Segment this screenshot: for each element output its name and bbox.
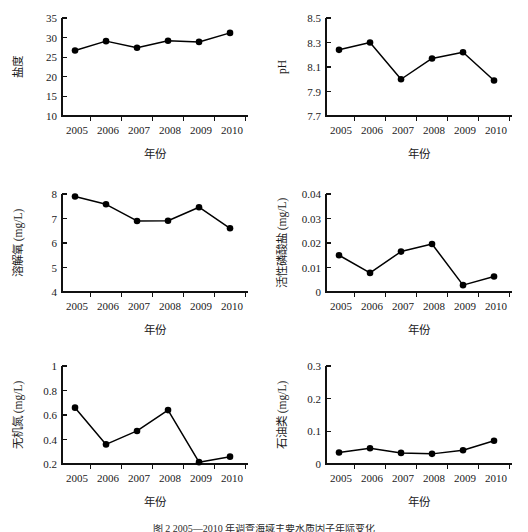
y-tick-label: 0.02	[302, 237, 321, 249]
chart-svg-petroleum: 00.10.20.3200520062007200820092010年份石油类 …	[264, 352, 528, 526]
x-axis-ticks-inorganic-nitrogen: 200520062007200820092010	[66, 464, 246, 484]
y-tick-label: 0.8	[43, 385, 57, 397]
data-point	[72, 404, 79, 411]
y-tick-label: 20	[46, 71, 58, 83]
x-tick-label: 2008	[423, 472, 446, 484]
x-axis-title: 年份	[144, 323, 167, 336]
x-tick-label: 2010	[221, 300, 244, 312]
x-tick-label: 2009	[454, 472, 477, 484]
x-tick-label: 2006	[361, 124, 384, 136]
data-point	[429, 451, 436, 458]
x-tick-label: 2007	[128, 124, 151, 136]
chart-svg-salinity: 101520253035200520062007200820092010年份盐度	[0, 4, 264, 178]
data-point	[165, 37, 172, 44]
x-tick-label: 2010	[485, 300, 508, 312]
data-point	[336, 47, 343, 54]
data-point	[165, 407, 172, 414]
chart-svg-active-phosphate: 00.010.020.030.0420052006200720082009201…	[264, 180, 528, 354]
y-tick-label: 0.1	[307, 425, 321, 437]
y-tick-label: 5	[52, 262, 58, 274]
y-tick-label: 8.1	[307, 61, 321, 73]
y-axis-ticks-dissolved-oxygen: 45678	[52, 188, 68, 298]
data-point	[227, 453, 234, 460]
data-point	[72, 193, 79, 200]
y-tick-label: 6	[52, 237, 58, 249]
axes-inorganic-nitrogen	[62, 366, 248, 464]
y-tick-label: 35	[46, 12, 58, 24]
x-tick-label: 2010	[221, 124, 244, 136]
y-tick-label: 25	[46, 51, 58, 63]
x-axis-title: 年份	[144, 147, 167, 160]
y-axis-title: 溶解氧 (mg/L)	[11, 209, 25, 278]
x-axis-ticks-petroleum: 200520062007200820092010	[330, 464, 510, 484]
figure-caption-clipped: 图 2 2005—2010 年调查海域主要水质因子年际变化	[0, 524, 528, 532]
y-tick-label: 7.9	[307, 86, 321, 98]
axes-dissolved-oxygen	[62, 194, 248, 292]
axes-active-phosphate	[326, 194, 512, 292]
x-axis-ticks-active-phosphate: 200520062007200820092010	[330, 292, 510, 312]
data-point	[336, 449, 343, 456]
data-point	[398, 450, 405, 457]
y-tick-label: 8	[52, 188, 58, 200]
x-axis-title: 年份	[408, 147, 431, 160]
data-point	[134, 218, 141, 225]
chart-panel-active-phosphate: 00.010.020.030.0420052006200720082009201…	[264, 180, 528, 354]
x-tick-label: 2006	[361, 300, 384, 312]
x-tick-label: 2006	[97, 124, 120, 136]
x-axis-ticks-ph: 200520062007200820092010	[330, 116, 510, 136]
data-point	[429, 241, 436, 248]
data-point	[460, 447, 467, 454]
chart-panel-petroleum: 00.10.20.3200520062007200820092010年份石油类 …	[264, 352, 528, 526]
y-tick-label: 0.04	[302, 188, 322, 200]
chart-panel-dissolved-oxygen: 45678200520062007200820092010年份溶解氧 (mg/L…	[0, 180, 264, 354]
y-tick-label: 7	[52, 213, 58, 225]
data-point	[491, 77, 498, 84]
series-line-salinity	[75, 33, 230, 51]
chart-svg-ph: 7.77.98.18.38.5200520062007200820092010年…	[264, 4, 528, 178]
x-tick-label: 2009	[190, 300, 213, 312]
x-tick-label: 2009	[190, 472, 213, 484]
x-tick-label: 2007	[392, 300, 415, 312]
data-point	[103, 38, 110, 45]
data-point	[134, 428, 141, 435]
data-point	[367, 39, 374, 46]
x-tick-label: 2010	[221, 472, 244, 484]
data-point	[429, 55, 436, 62]
series-line-active-phosphate	[339, 244, 494, 285]
x-axis-title: 年份	[408, 323, 431, 336]
x-tick-label: 2010	[485, 472, 508, 484]
data-point	[491, 273, 498, 280]
axes-petroleum	[326, 366, 512, 464]
x-tick-label: 2008	[423, 124, 446, 136]
y-tick-label: 0.01	[302, 262, 321, 274]
y-axis-ticks-petroleum: 00.10.20.3	[307, 360, 331, 470]
axes-salinity	[62, 18, 248, 116]
x-axis-ticks-salinity: 200520062007200820092010	[66, 116, 246, 136]
chart-svg-inorganic-nitrogen: 0.20.40.60.81200520062007200820092010年份无…	[0, 352, 264, 526]
x-tick-label: 2008	[159, 300, 182, 312]
x-tick-label: 2010	[485, 124, 508, 136]
data-point	[336, 252, 343, 259]
figure-panel-grid: 101520253035200520062007200820092010年份盐度…	[0, 0, 528, 532]
y-tick-label: 7.7	[307, 110, 321, 122]
y-tick-label: 0	[316, 458, 322, 470]
y-tick-label: 0	[316, 286, 322, 298]
y-axis-title: 石油类 (mg/L)	[275, 381, 289, 450]
data-point	[196, 39, 203, 46]
x-tick-label: 2008	[159, 472, 182, 484]
series-line-ph	[339, 43, 494, 81]
y-axis-ticks-inorganic-nitrogen: 0.20.40.60.81	[43, 360, 67, 470]
series-line-inorganic-nitrogen	[75, 408, 230, 463]
x-tick-label: 2006	[97, 300, 120, 312]
y-tick-label: 0.6	[43, 409, 57, 421]
data-point	[367, 445, 374, 452]
y-axis-ticks-ph: 7.77.98.18.38.5	[307, 12, 331, 122]
y-tick-label: 0.2	[43, 458, 57, 470]
chart-svg-dissolved-oxygen: 45678200520062007200820092010年份溶解氧 (mg/L…	[0, 180, 264, 354]
x-tick-label: 2005	[66, 124, 89, 136]
y-tick-label: 0.03	[302, 213, 322, 225]
data-point	[103, 441, 110, 448]
y-tick-label: 10	[46, 110, 58, 122]
y-tick-label: 1	[52, 360, 58, 372]
x-tick-label: 2005	[66, 300, 89, 312]
